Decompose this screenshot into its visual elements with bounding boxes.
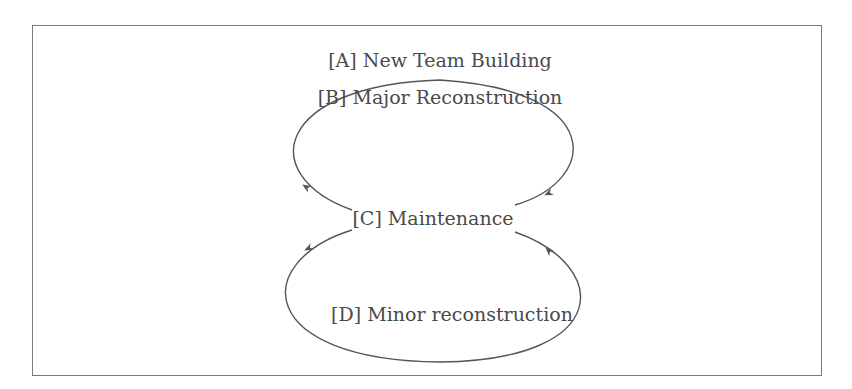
node-c-label: [C] Maintenance	[352, 207, 513, 229]
node-d-label: [D] Minor reconstruction	[331, 303, 573, 325]
node-b-label: [B] Major Reconstruction	[318, 86, 563, 108]
arrow-upper-right-icon	[545, 172, 573, 195]
node-a-label: [A] New Team Building	[328, 49, 552, 71]
lower-loop-arc	[286, 230, 581, 362]
arrow-lower-left-icon	[305, 237, 330, 250]
